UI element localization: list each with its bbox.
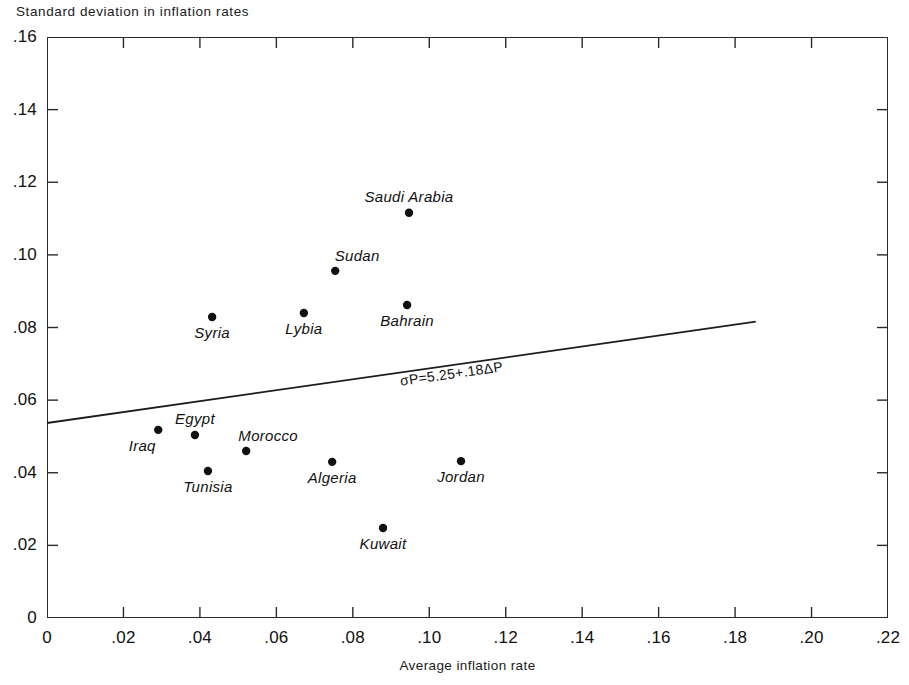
data-point-label: Egypt <box>175 410 215 427</box>
data-point-label: Tunisia <box>183 478 232 495</box>
plot-frame <box>47 37 888 618</box>
x-axis-caption: Average inflation rate <box>399 658 535 673</box>
data-point-label: Lybia <box>285 320 322 337</box>
y-tick-label: .02 <box>0 535 37 555</box>
y-tick-label: 0 <box>0 608 37 628</box>
x-tick-label: .20 <box>799 628 823 648</box>
x-tick-label: .16 <box>647 628 671 648</box>
y-tick-label: .10 <box>0 245 37 265</box>
x-tick-label: .04 <box>188 628 212 648</box>
x-tick-label: .12 <box>494 628 518 648</box>
data-point-label: Saudi Arabia <box>365 188 454 205</box>
data-point-label: Bahrain <box>380 312 434 329</box>
y-tick-label: .16 <box>0 27 37 47</box>
y-tick-label: .14 <box>0 100 37 120</box>
y-tick-label: .06 <box>0 390 37 410</box>
y-tick-label: .04 <box>0 463 37 483</box>
data-point-label: Iraq <box>129 437 156 454</box>
data-point-label: Morocco <box>238 427 298 444</box>
scatter-plot-figure: Standard deviation in inflation rates 0.… <box>0 0 909 685</box>
data-point-label: Sudan <box>335 247 380 264</box>
data-point-label: Jordan <box>437 468 485 485</box>
x-tick-label: .08 <box>341 628 365 648</box>
x-tick-label: .06 <box>264 628 288 648</box>
x-tick-label: .18 <box>723 628 747 648</box>
x-tick-label: .10 <box>417 628 441 648</box>
data-point-label: Syria <box>194 324 230 341</box>
y-tick-label: .12 <box>0 172 37 192</box>
y-axis-caption: Standard deviation in inflation rates <box>16 4 249 19</box>
data-point-label: Kuwait <box>360 535 407 552</box>
y-tick-label: .08 <box>0 318 37 338</box>
x-tick-label: 0 <box>42 628 52 648</box>
x-tick-label: .14 <box>570 628 594 648</box>
x-tick-label: .02 <box>111 628 135 648</box>
x-tick-label: .22 <box>876 628 900 648</box>
data-point-label: Algeria <box>308 469 357 486</box>
